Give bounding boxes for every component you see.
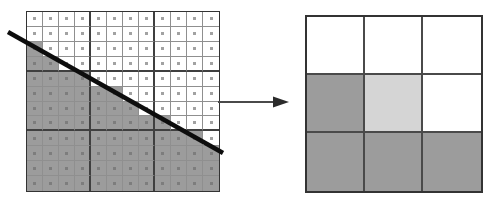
sample-point-dot — [177, 32, 180, 35]
sample-cell — [27, 42, 43, 57]
sample-point-dot — [81, 137, 84, 140]
sample-cell — [171, 131, 187, 146]
sample-point-dot — [33, 182, 36, 185]
sample-cell — [59, 161, 75, 176]
sample-cell — [187, 72, 203, 87]
sample-cell — [123, 176, 139, 191]
sample-point-dot — [97, 107, 100, 110]
sample-cell — [59, 87, 75, 102]
sample-cell — [59, 42, 75, 57]
sample-point-dot — [161, 137, 164, 140]
sample-cell — [75, 87, 91, 102]
sample-point-dot — [113, 62, 116, 65]
sample-point-dot — [65, 17, 68, 20]
sample-cell — [123, 27, 139, 42]
sample-point-dot — [97, 47, 100, 50]
sample-cell — [187, 102, 203, 117]
sample-cell — [75, 57, 91, 72]
sample-point-dot — [113, 182, 116, 185]
sample-cell — [123, 102, 139, 117]
sample-cell — [59, 146, 75, 161]
sample-point-dot — [97, 167, 100, 170]
sample-point-dot — [49, 47, 52, 50]
sample-cell — [155, 87, 171, 102]
sample-cell — [91, 12, 107, 27]
sample-point-dot — [97, 77, 100, 80]
sample-point-dot — [33, 107, 36, 110]
pixel-cell — [423, 75, 481, 133]
sample-point-dot — [65, 152, 68, 155]
sample-point-dot — [81, 92, 84, 95]
sample-point-dot — [193, 107, 196, 110]
sample-point-dot — [129, 152, 132, 155]
sample-cell — [107, 116, 123, 131]
sample-point-dot — [193, 77, 196, 80]
sample-cell — [139, 42, 155, 57]
sample-point-dot — [81, 167, 84, 170]
sample-point-dot — [193, 32, 196, 35]
sample-point-dot — [210, 92, 213, 95]
sample-cell — [139, 116, 155, 131]
sample-cell — [59, 27, 75, 42]
sample-point-dot — [81, 107, 84, 110]
sample-cell — [139, 176, 155, 191]
arrow-head — [273, 97, 289, 108]
sample-cell — [43, 12, 59, 27]
sample-point-dot — [65, 32, 68, 35]
sample-cell — [59, 72, 75, 87]
sample-cell — [139, 57, 155, 72]
sample-point-dot — [161, 121, 164, 124]
sample-point-dot — [193, 62, 196, 65]
sample-point-dot — [161, 107, 164, 110]
sample-point-dot — [113, 137, 116, 140]
sample-cell — [203, 146, 219, 161]
sample-cell — [123, 42, 139, 57]
sample-point-dot — [65, 77, 68, 80]
sample-cell — [139, 27, 155, 42]
pixel-cell — [307, 133, 365, 191]
sample-cell — [171, 146, 187, 161]
sample-point-dot — [65, 182, 68, 185]
sample-cell — [43, 116, 59, 131]
sample-point-dot — [210, 107, 213, 110]
pixel-cell — [307, 17, 365, 75]
sample-cell — [27, 87, 43, 102]
sample-point-dot — [81, 32, 84, 35]
sample-point-dot — [129, 47, 132, 50]
sample-cell — [187, 176, 203, 191]
sample-point-dot — [177, 17, 180, 20]
sample-point-dot — [113, 107, 116, 110]
sample-point-dot — [81, 77, 84, 80]
sample-cell — [171, 57, 187, 72]
sample-cell — [43, 161, 59, 176]
sample-cell — [203, 87, 219, 102]
sample-cell — [203, 116, 219, 131]
sample-point-dot — [193, 182, 196, 185]
sample-point-dot — [129, 92, 132, 95]
sample-cell — [43, 57, 59, 72]
sample-cell — [171, 176, 187, 191]
sample-cell — [59, 57, 75, 72]
sample-point-dot — [193, 137, 196, 140]
sample-cell — [75, 116, 91, 131]
sample-point-dot — [97, 92, 100, 95]
sample-point-dot — [210, 121, 213, 124]
sample-cell — [187, 27, 203, 42]
sample-point-dot — [193, 152, 196, 155]
sample-cell — [43, 72, 59, 87]
sample-point-dot — [193, 167, 196, 170]
sample-cell — [203, 176, 219, 191]
sample-point-dot — [33, 121, 36, 124]
sample-point-dot — [81, 47, 84, 50]
sample-point-dot — [33, 77, 36, 80]
sample-cell — [107, 27, 123, 42]
sample-point-dot — [177, 121, 180, 124]
sample-cell — [123, 87, 139, 102]
sample-cell — [75, 27, 91, 42]
sample-cell — [123, 72, 139, 87]
sample-point-dot — [81, 182, 84, 185]
sample-point-dot — [145, 167, 148, 170]
sample-point-dot — [49, 107, 52, 110]
sample-cell — [139, 161, 155, 176]
sample-cell — [139, 72, 155, 87]
